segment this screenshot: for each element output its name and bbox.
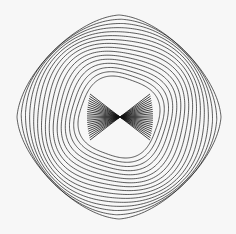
moire-line-art <box>0 0 236 234</box>
